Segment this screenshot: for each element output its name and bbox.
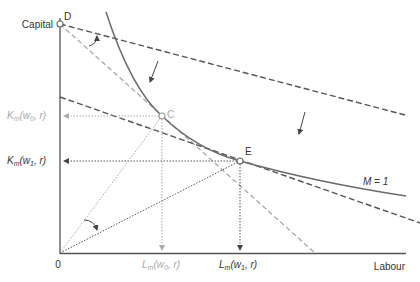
old-isocost-line xyxy=(60,24,315,253)
cost-minimisation-diagram: Capital Labour 0 D C E M = 1 Km(w0, r) K… xyxy=(0,0,420,282)
origin-label: 0 xyxy=(55,259,61,270)
y-axis-label: Capital xyxy=(22,19,53,30)
ray-origin-to-e xyxy=(60,161,240,253)
ray-origin-to-c xyxy=(60,116,162,253)
x-axis-label: Labour xyxy=(374,261,406,272)
point-c-marker xyxy=(159,113,165,119)
shift-arrow-1 xyxy=(150,61,158,82)
point-c-label: C xyxy=(167,109,174,120)
tick-km-w1: Km(w1, r) xyxy=(7,155,46,167)
tick-km-w0: Km(w0, r) xyxy=(7,110,46,122)
rotated-isocost-line xyxy=(60,24,405,115)
point-e-marker xyxy=(237,158,243,164)
rotation-arrow-d xyxy=(89,36,97,46)
point-e-label: E xyxy=(245,146,252,157)
tick-lm-w0: Lm(w0, r) xyxy=(142,259,180,271)
rotation-arrow-origin xyxy=(84,220,97,230)
point-d-marker xyxy=(57,21,63,27)
shift-arrow-2 xyxy=(299,112,305,134)
point-d-label: D xyxy=(64,11,71,22)
isoquant-label: M = 1 xyxy=(363,176,388,187)
tick-lm-w1: Lm(w1, r) xyxy=(219,259,257,271)
